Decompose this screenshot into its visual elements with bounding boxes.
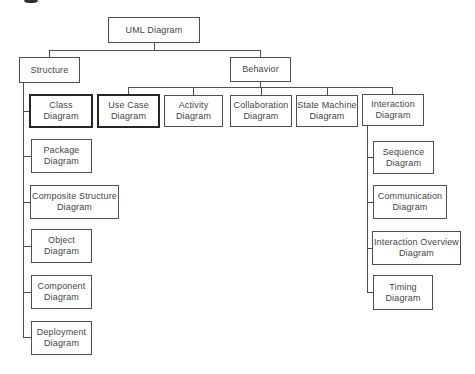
node-object-diagram: Object Diagram <box>31 229 92 263</box>
node-interaction-overview-diagram: Interaction Overview Diagram <box>372 231 461 265</box>
node-composite-structure-diagram: Composite Structure Diagram <box>30 185 119 219</box>
node-behavior: Behavior <box>230 57 291 82</box>
node-uml-diagram: UML Diagram <box>108 17 200 43</box>
top-edge-cropped-glyph-artifact <box>24 0 38 3</box>
node-component-diagram: Component Diagram <box>31 275 92 309</box>
node-structure: Structure <box>19 57 80 83</box>
connector-interaction-spine <box>367 126 368 292</box>
node-communication-diagram: Communication Diagram <box>373 185 447 219</box>
node-sequence-diagram: Sequence Diagram <box>373 141 434 174</box>
connector-level1-rail <box>49 50 261 51</box>
node-state-machine-diagram: State Machine Diagram <box>296 95 358 127</box>
node-activity-diagram: Activity Diagram <box>164 95 223 127</box>
node-use-case-diagram: Use Case Diagram <box>97 94 160 128</box>
node-timing-diagram: Timing Diagram <box>373 275 433 310</box>
diagram-canvas: UML DiagramStructureBehaviorClass Diagra… <box>0 0 475 374</box>
node-class-diagram: Class Diagram <box>29 94 93 128</box>
node-collaboration-diagram: Collaboration Diagram <box>230 95 292 127</box>
node-interaction-diagram: Interaction Diagram <box>362 94 424 126</box>
node-package-diagram: Package Diagram <box>31 139 92 173</box>
connector-structure-spine <box>23 83 24 338</box>
node-deployment-diagram: Deployment Diagram <box>31 321 92 355</box>
